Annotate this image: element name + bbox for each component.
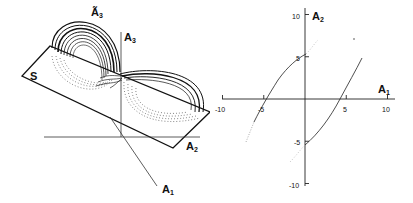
y-tick-label: -5 xyxy=(294,139,300,146)
attractor-diagram: S Ã3 A3 A2 A1 xyxy=(0,0,210,203)
right-branch-solid xyxy=(305,58,362,145)
left-branch-dotted-top xyxy=(306,40,318,54)
stray-point xyxy=(353,38,355,40)
x-tick-label: -10 xyxy=(215,106,225,113)
label-s: S xyxy=(30,70,37,82)
y-tick-label: 10 xyxy=(292,13,300,20)
y-axis-label: A2 xyxy=(312,10,324,23)
label-a3-tilde: Ã3 xyxy=(91,6,103,19)
left-branch-dotted xyxy=(246,122,254,142)
right-lobe-dotted xyxy=(124,82,200,122)
label-a3: A3 xyxy=(124,31,136,44)
phase-plot: -10 -5 5 10 10 5 -5 -10 A2 A1 xyxy=(210,0,413,203)
right-branch-dotted xyxy=(290,145,305,162)
phase-curves xyxy=(246,38,362,162)
phase-plot-svg: -10 -5 5 10 10 5 -5 -10 A2 A1 xyxy=(210,0,413,203)
x-tick-label: 5 xyxy=(343,106,347,113)
right-lobe-trajectories xyxy=(120,71,204,112)
y-tick-label: -10 xyxy=(289,182,299,189)
x-axis-label: A1 xyxy=(378,83,390,96)
label-a1: A1 xyxy=(162,183,174,196)
crossing-strands xyxy=(96,76,122,89)
label-a2: A2 xyxy=(186,140,198,153)
a1-axis-line xyxy=(110,117,157,186)
attractor-svg: S Ã3 A3 A2 A1 xyxy=(0,0,210,203)
x-tick-label: 10 xyxy=(382,106,390,113)
